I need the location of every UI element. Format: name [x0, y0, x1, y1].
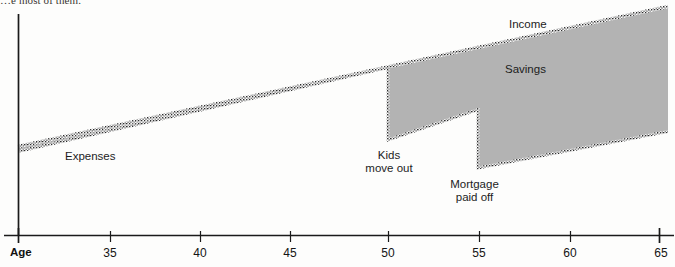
mortgage-paid-off-line1: Mortgage — [407, 178, 542, 191]
x-axis-title: Age — [10, 246, 32, 258]
savings-label: Savings — [505, 63, 546, 76]
x-tick-label-45: 45 — [283, 246, 296, 260]
x-tick-label-40: 40 — [193, 246, 206, 260]
x-tick-label-65: 65 — [654, 246, 667, 260]
chart-figure: …e most of them. — [0, 0, 675, 267]
kids-move-out-line2: move out — [334, 162, 444, 175]
x-tick-label-50: 50 — [381, 246, 394, 260]
income-label: Income — [509, 18, 547, 31]
x-tick-label-60: 60 — [563, 246, 576, 260]
kids-move-out-line1: Kids — [334, 149, 444, 162]
x-tick-label-55: 55 — [472, 246, 485, 260]
x-tick-label-35: 35 — [103, 246, 116, 260]
mortgage-paid-off-line2: paid off — [407, 191, 542, 204]
chart-canvas — [0, 0, 675, 267]
kids-move-out-label: Kids move out — [334, 149, 444, 175]
mortgage-paid-off-label: Mortgage paid off — [407, 178, 542, 204]
savings-area — [18, 8, 668, 168]
expenses-label: Expenses — [65, 150, 116, 163]
